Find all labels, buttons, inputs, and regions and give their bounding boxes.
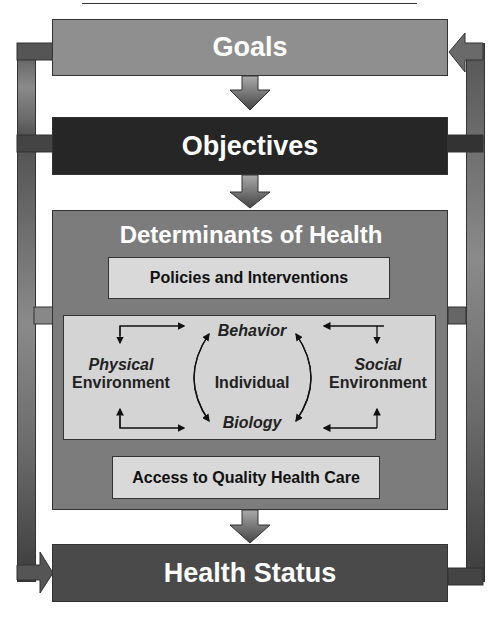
relationship-arrows [64,316,437,441]
health-status-label: Health Status [164,558,337,589]
objectives-box: Objectives [52,117,448,175]
individual-box: Behavior Biology Individual Physical Env… [63,315,436,440]
goals-label: Goals [212,32,287,63]
health-status-box: Health Status [52,544,448,602]
policies-box: Policies and Interventions [108,257,390,299]
determinants-title: Determinants of Health [53,221,449,249]
policies-label: Policies and Interventions [150,269,348,287]
access-box: Access to Quality Health Care [112,456,380,499]
access-label: Access to Quality Health Care [132,469,360,487]
objectives-label: Objectives [182,131,319,162]
goals-box: Goals [52,19,448,76]
